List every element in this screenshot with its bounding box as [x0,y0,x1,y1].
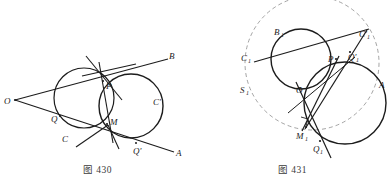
figure-430-drawing: O B A P M Q Q' C C' [0,0,195,162]
figure-431-caption: 图 431 [195,162,390,176]
label-C1-subscript: 1 [248,58,251,64]
circle-upper-B1 [271,29,331,89]
line-M-right-ray [108,125,119,149]
label-C1-prime-group: C' 1 [359,29,370,40]
label-Q1-prime-group: Q' 1 [348,52,359,63]
label-C-prime: C' [153,97,162,107]
label-S1-group: S 1 [240,85,249,96]
figure-430-panel: O B A P M Q Q' C C' 图 430 [0,0,195,189]
figure-431-drawing: B 1 C 1 S 1 C' 1 Q' 1 P O M 1 [195,0,390,162]
line-OA [15,100,174,152]
label-M1: M [295,131,304,141]
line-OB [15,59,168,100]
dot-O [14,99,16,101]
dot-M [106,123,108,125]
dot-M1 [305,126,307,128]
label-B1-group: B 1 [274,27,284,38]
figure-431-panel: B 1 C 1 S 1 C' 1 Q' 1 P O M 1 [195,0,390,189]
dot-Q-prime [135,142,137,144]
label-M: M [109,117,118,127]
label-M1-subscript: 1 [305,136,308,142]
dot-Q [59,115,61,117]
label-C1: C [241,53,248,63]
label-P: P [105,81,112,91]
label-C1-prime-subscript: 1 [367,34,370,40]
label-C: C [62,134,69,144]
label-B1: B [274,27,280,37]
dot-P [335,58,337,60]
figure-430-caption: 图 430 [0,162,195,176]
label-S1-subscript: 1 [246,90,249,96]
dot-P [102,80,104,82]
label-O: O [296,85,303,95]
label-Q1-group: Q 1 [313,144,323,155]
figure-page: O B A P M Q Q' C C' 图 430 [0,0,390,189]
label-A: A [175,148,182,158]
dot-Q1 [319,140,321,142]
label-C1-group: C 1 [241,53,251,64]
label-O: O [4,96,11,106]
label-Q1: Q [313,144,320,154]
label-P: P [327,54,334,64]
label-S1: S [240,85,245,95]
label-Q: Q [51,114,58,124]
label-A: A [378,80,385,90]
label-Q1-prime-subscript: 1 [356,57,359,63]
label-B1-subscript: 1 [281,32,284,38]
label-M1-group: M 1 [295,131,308,142]
label-Q-prime: Q' [133,146,142,156]
label-Q1-subscript: 1 [320,149,323,155]
label-B: B [169,51,175,61]
